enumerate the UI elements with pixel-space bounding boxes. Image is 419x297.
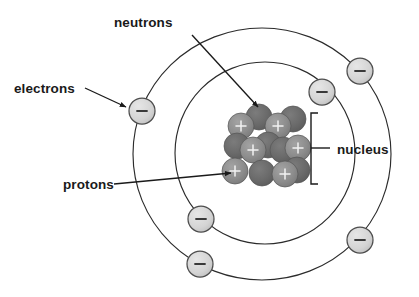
atom-diagram-canvas: neutrons electrons protons nucleus bbox=[0, 0, 419, 297]
neutrons-label: neutrons bbox=[114, 15, 173, 30]
electron-particle bbox=[187, 251, 213, 277]
nucleus-group bbox=[222, 104, 311, 187]
atom-diagram: neutrons electrons protons nucleus bbox=[0, 0, 419, 297]
electron-particle bbox=[129, 98, 155, 124]
protons-arrow bbox=[114, 173, 231, 184]
nucleus-label: nucleus bbox=[337, 142, 389, 157]
nucleus-bracket bbox=[311, 113, 330, 184]
electron-particle bbox=[347, 227, 373, 253]
electron-particle bbox=[347, 58, 373, 84]
neutrons-arrow bbox=[192, 35, 258, 107]
neutron-particle bbox=[249, 160, 275, 186]
electrons-label: electrons bbox=[14, 81, 75, 96]
electron-particle bbox=[188, 206, 214, 232]
electrons-arrow bbox=[85, 88, 126, 107]
protons-label: protons bbox=[63, 177, 114, 192]
electron-particle bbox=[309, 79, 335, 105]
